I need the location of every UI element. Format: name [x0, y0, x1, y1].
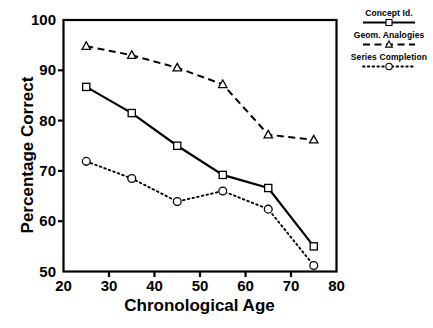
data-point-marker: [83, 83, 90, 90]
legend-item-sample: [345, 62, 433, 70]
data-point-marker: [82, 42, 90, 50]
plot-area: [0, 0, 433, 328]
series-2: [82, 42, 318, 143]
legend-item-label: Concept Id.: [345, 8, 433, 18]
data-point-marker: [219, 187, 227, 195]
data-point-marker: [173, 63, 181, 71]
legend-item-label: Series Completion: [345, 52, 433, 62]
legend-item-3[interactable]: Series Completion: [345, 52, 433, 70]
chart-figure: Percentage Correct Chronological Age 100…: [0, 0, 433, 328]
data-point-marker: [174, 142, 181, 149]
data-point-marker: [173, 198, 181, 206]
legend-item-2[interactable]: Geom. Analogies: [345, 30, 433, 48]
data-point-marker: [310, 135, 318, 143]
legend-item-sample: [345, 18, 433, 26]
data-point-marker: [128, 175, 136, 183]
legend-sample-marker: [386, 63, 392, 69]
data-point-marker: [310, 262, 318, 270]
data-point-marker: [264, 205, 272, 213]
series-line: [86, 161, 314, 265]
legend-item-label: Geom. Analogies: [345, 30, 433, 40]
data-point-marker: [128, 109, 135, 116]
legend-item-1[interactable]: Concept Id.: [345, 8, 433, 26]
data-point-marker: [82, 157, 90, 165]
data-point-marker: [128, 51, 136, 59]
data-point-marker: [310, 243, 317, 250]
legend-sample-marker: [386, 20, 392, 26]
data-point-marker: [265, 184, 272, 191]
series-3: [82, 157, 317, 269]
legend-item-sample: [345, 40, 433, 48]
axis-frame: [64, 20, 337, 272]
series-line: [86, 46, 314, 140]
data-point-marker: [219, 171, 226, 178]
